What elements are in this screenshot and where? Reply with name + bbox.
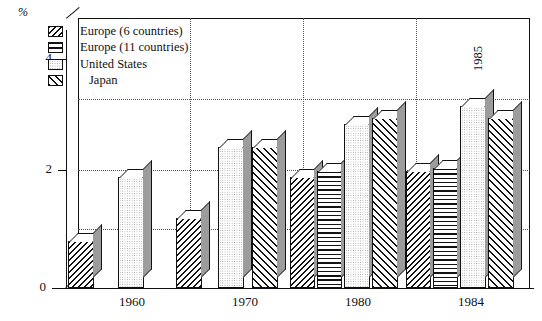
bar-group-1980 (288, 33, 414, 288)
y-tick-label-2: 2 (34, 161, 52, 177)
bar-1980-us (344, 124, 370, 288)
x-tick-label-1984: 1984 (431, 294, 511, 310)
bar-1960-us (118, 177, 144, 288)
y-axis-unit-label: % (18, 5, 28, 20)
bar-1970-eu6 (176, 218, 202, 288)
bar-1984-eu11 (433, 168, 458, 288)
bar-side-face (93, 224, 102, 278)
bar-1984-us (460, 106, 486, 288)
bar-1960-eu6 (68, 241, 94, 288)
legend-swatch-eu6 (48, 26, 63, 37)
legend-item-eu6: Europe (6 countries) (48, 24, 189, 38)
x-tick-label-1970: 1970 (205, 294, 285, 310)
x-tick-label-1960: 1960 (92, 294, 172, 310)
bar-side-face (513, 101, 522, 278)
bar-1980-eu11 (317, 171, 342, 288)
bar-1970-us (218, 147, 244, 288)
bar-group-1984 (404, 33, 530, 288)
bar-1970-jp (252, 147, 278, 288)
bar-side-face (201, 201, 210, 278)
legend-item-jp: Japan (48, 74, 189, 88)
bar-side-face (277, 130, 286, 278)
bar-side-face (143, 160, 152, 278)
bar-group-1970 (172, 33, 298, 288)
bar-1984-jp (488, 118, 514, 288)
bar-side-face (243, 130, 252, 278)
y-tick-0 (52, 288, 66, 289)
bar-chart: % 4 2 0 1960 1970 1980 1984 (0, 0, 542, 321)
legend-label-jp: Japan (80, 73, 117, 88)
legend-label-eu11: Europe (11 countries) (80, 40, 189, 55)
y-tick-label-0: 0 (28, 279, 46, 295)
legend-swatch-us (48, 59, 63, 70)
x-tick-label-1980: 1980 (318, 294, 398, 310)
legend-swatch-jp (48, 75, 63, 86)
legend: Europe (6 countries) Europe (11 countrie… (48, 24, 189, 90)
bar-1980-eu6 (290, 177, 315, 288)
legend-label-eu6: Europe (6 countries) (80, 24, 183, 39)
bar-1980-jp (372, 118, 398, 288)
legend-label-us: United States (80, 57, 147, 72)
bar-1984-eu6 (406, 171, 431, 288)
x-axis-baseline (66, 288, 534, 289)
legend-item-us: United States (48, 57, 189, 71)
legend-item-eu11: Europe (11 countries) (48, 41, 189, 55)
axis-wall-top-slant (66, 7, 80, 19)
annotation-1985: 1985 (471, 46, 486, 71)
legend-swatch-eu11 (48, 42, 63, 53)
